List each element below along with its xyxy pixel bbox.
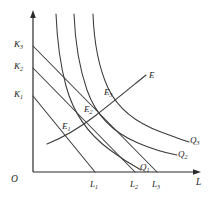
isoquant-curve-2 <box>74 14 177 155</box>
x-axis-label: L <box>196 178 201 188</box>
y-axis-arrow-icon <box>30 10 36 18</box>
y-tick-label-k1: K1 <box>14 90 23 99</box>
equilibrium-e1-sub: 1 <box>68 126 71 132</box>
x-tick-l2-sub: 2 <box>135 184 138 190</box>
x-tick-l1-sub: 1 <box>95 184 98 190</box>
equilibrium-e2-sub: 2 <box>90 109 93 115</box>
isocost-line-3 <box>33 46 157 172</box>
isoquant-q1-base: Q <box>140 162 147 172</box>
x-axis-arrow-icon <box>193 169 201 175</box>
isoquant-label-q1: Q1 <box>140 163 150 172</box>
isoquant-q2-base: Q <box>178 149 185 159</box>
equilibrium-e1-base: E <box>62 121 68 131</box>
isoquant-q2-sub: 2 <box>185 154 188 160</box>
equilibrium-e3-sub: 3 <box>110 92 113 98</box>
x-tick-label-l1: L1 <box>90 180 98 189</box>
isoquant-curve-1 <box>56 14 141 170</box>
y-tick-k2-sub: 2 <box>20 66 23 72</box>
y-tick-k1-sub: 1 <box>20 94 23 100</box>
isoquant-q3-sub: 3 <box>197 140 200 146</box>
y-tick-label-k2: K2 <box>14 62 23 71</box>
equilibrium-label-e1: E1 <box>62 122 71 131</box>
isoquant-q3-base: Q <box>190 135 197 145</box>
y-tick-k3-sub: 3 <box>20 44 23 50</box>
equilibrium-e3-base: E <box>104 87 110 97</box>
isoquant-q1-sub: 1 <box>147 167 150 173</box>
origin-label: O <box>11 175 18 185</box>
y-tick-label-k3: K3 <box>14 40 23 49</box>
x-tick-l3-sub: 3 <box>157 184 160 190</box>
isoquant-label-q3: Q3 <box>190 136 200 145</box>
isoquant-isocost-figure: K3 K2 K1 O L1 L2 L3 L E1 E2 E3 E Q1 Q2 Q… <box>0 0 212 208</box>
equilibrium-label-e3: E3 <box>104 88 113 97</box>
equilibrium-e2-base: E <box>84 104 90 114</box>
expansion-path-label: E <box>149 71 155 80</box>
isoquant-label-q2: Q2 <box>178 150 188 159</box>
equilibrium-label-e2: E2 <box>84 105 93 114</box>
x-tick-label-l3: L3 <box>152 180 160 189</box>
x-tick-label-l2: L2 <box>130 180 138 189</box>
figure-canvas <box>0 0 212 208</box>
